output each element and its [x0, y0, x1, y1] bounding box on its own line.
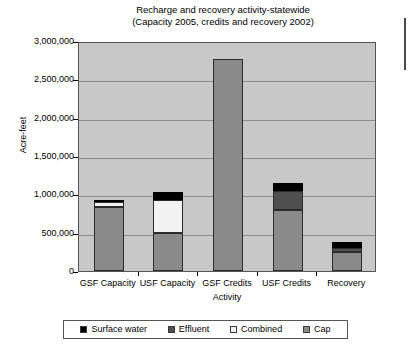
legend-swatch-icon — [303, 326, 310, 333]
y-tick-label: 3,000,000 — [4, 37, 74, 46]
x-tick-mark — [257, 272, 258, 276]
x-tick-mark — [316, 272, 317, 276]
x-tick-mark — [197, 272, 198, 276]
legend-item-combined[interactable]: Combined — [230, 325, 282, 334]
bar-segment-surface-water[interactable] — [153, 192, 183, 200]
y-tick-label: 1,500,000 — [4, 152, 74, 161]
bar-segment-effluent[interactable] — [332, 248, 362, 252]
chart-title-block: Recharge and recovery activity-statewide… — [78, 4, 368, 28]
y-tick-mark — [73, 272, 78, 273]
bar-segment-combined[interactable] — [94, 202, 124, 207]
bar-segment-cap[interactable] — [94, 207, 124, 271]
legend-item-surface-water[interactable]: Surface water — [80, 325, 147, 334]
legend-label: Cap — [314, 325, 331, 334]
bar-segment-surface-water[interactable] — [94, 200, 124, 202]
legend-label: Effluent — [179, 325, 209, 334]
bar-stack[interactable] — [332, 41, 362, 271]
bar-segment-effluent[interactable] — [273, 191, 303, 209]
x-tick-label-recovery: Recovery — [316, 278, 376, 288]
y-axis-title: Acre-feet — [18, 90, 28, 180]
legend-item-effluent[interactable]: Effluent — [168, 325, 209, 334]
legend-swatch-icon — [80, 326, 87, 333]
y-tick-label: 1,000,000 — [4, 190, 74, 199]
plot-area — [78, 42, 376, 272]
bar-chart: Recharge and recovery activity-statewide… — [0, 0, 409, 354]
bar-segment-cap[interactable] — [213, 59, 243, 271]
legend-label: Surface water — [91, 325, 147, 334]
bar-segment-combined[interactable] — [153, 200, 183, 232]
x-axis-title: Activity — [78, 292, 376, 302]
y-tick-label: 2,000,000 — [4, 114, 74, 123]
y-tick-label: 2,500,000 — [4, 75, 74, 84]
y-tick-label: 0 — [4, 267, 74, 276]
legend-swatch-icon — [230, 326, 237, 333]
legend-swatch-icon — [168, 326, 175, 333]
x-tick-label-usf-capacity: USF Capacity — [138, 278, 198, 288]
bar-stack[interactable] — [273, 41, 303, 271]
x-tick-label-gsf-credits: GSF Credits — [197, 278, 257, 288]
legend-item-cap[interactable]: Cap — [303, 325, 331, 334]
bar-segment-cap[interactable] — [273, 210, 303, 271]
bar-segment-surface-water[interactable] — [273, 183, 303, 191]
x-tick-mark — [138, 272, 139, 276]
bar-stack[interactable] — [153, 41, 183, 271]
chart-subtitle: (Capacity 2005, credits and recovery 200… — [78, 16, 368, 28]
bar-segment-cap[interactable] — [153, 233, 183, 271]
chart-title: Recharge and recovery activity-statewide — [78, 4, 368, 16]
scan-edge-artifact — [404, 18, 406, 70]
chart-legend: Surface waterEffluentCombinedCap — [63, 320, 348, 339]
bar-segment-surface-water[interactable] — [332, 242, 362, 248]
bar-stack[interactable] — [94, 41, 124, 271]
x-tick-label-usf-credits: USF Credits — [257, 278, 317, 288]
legend-label: Combined — [241, 325, 282, 334]
bar-stack[interactable] — [213, 41, 243, 271]
x-tick-label-gsf-capacity: GSF Capacity — [78, 278, 138, 288]
y-tick-label: 500,000 — [4, 229, 74, 238]
bar-segment-cap[interactable] — [332, 252, 362, 271]
